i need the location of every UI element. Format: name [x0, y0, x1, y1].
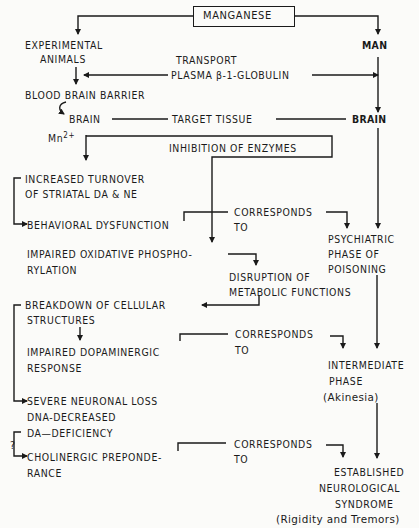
established-line3: SYNDROME: [335, 497, 393, 511]
severe-neuronal-loss: SEVERE NEURONAL LOSS: [27, 394, 158, 408]
established-line1: ESTABLISHED: [334, 465, 404, 479]
man-label: MAN: [362, 38, 387, 52]
blood-brain-barrier-label: BLOOD BRAIN BARRIER: [25, 88, 145, 102]
plasma-label: PLASMA β-1-GLOBULIN: [171, 68, 290, 82]
ion-charge: 2+: [63, 131, 75, 140]
left-brain-label: BRAIN: [69, 112, 101, 126]
increased-turnover-line2: OF STRIATAL DA & NE: [25, 187, 138, 201]
breakdown-line1: BREAKDOWN OF CELLULAR: [25, 298, 166, 312]
transport-label: TRANSPORT: [176, 53, 237, 67]
psychiatric-line3: POISONING: [328, 262, 386, 276]
behavioral-dysfunction: BEHAVIORAL DYSFUNCTION: [27, 218, 169, 232]
disruption-line1: DISRUPTION OF: [229, 270, 310, 284]
dna-decreased: DNA-DECREASED: [27, 410, 116, 424]
root-label: MANGANESE: [203, 9, 272, 23]
psychiatric-line1: PSYCHIATRIC: [328, 232, 395, 246]
cholinergic-line1: CHOLINERGIC PREPONDE-: [27, 450, 162, 464]
question-mark: ?: [10, 438, 16, 452]
ion-symbol: Mn: [48, 132, 63, 144]
ion-label: Mn2+: [48, 129, 75, 145]
established-line4: (Rigidity and Tremors): [276, 512, 400, 526]
cholinergic-line2: RANCE: [27, 466, 62, 480]
animals-label: ANIMALS: [40, 52, 86, 66]
target-tissue-label: TARGET TISSUE: [172, 112, 253, 126]
corresponds-1-line2: TO: [234, 220, 248, 234]
intermediate-line2: PHASE: [329, 374, 363, 388]
impaired-oxidative-line1: IMPAIRED OXIDATIVE PHOSPHO-: [27, 247, 193, 261]
inhibition-label: INHIBITION OF ENZYMES: [169, 141, 297, 155]
corresponds-2-line2: TO: [235, 343, 249, 357]
right-brain-label: BRAIN: [352, 112, 386, 126]
corresponds-2-line1: CORRESPONDS: [235, 327, 313, 341]
established-line2: NEUROLOGICAL: [319, 481, 400, 495]
da-deficiency: DA—DEFICIENCY: [27, 426, 113, 440]
impaired-dopaminergic-line1: IMPAIRED DOPAMINERGIC: [27, 345, 160, 359]
impaired-dopaminergic-line2: RESPONSE: [27, 361, 82, 375]
intermediate-line1: INTERMEDIATE: [328, 358, 404, 372]
corresponds-1-line1: CORRESPONDS: [234, 205, 312, 219]
impaired-oxidative-line2: RYLATION: [27, 263, 77, 277]
experimental-label: EXPERIMENTAL: [25, 38, 103, 52]
corresponds-3-line2: TO: [234, 452, 248, 466]
psychiatric-line2: PHASE OF: [328, 247, 379, 261]
disruption-line2: METABOLIC FUNCTIONS: [229, 285, 351, 299]
breakdown-line2: STRUCTURES: [27, 313, 95, 327]
increased-turnover-line1: INCREASED TURNOVER: [25, 172, 145, 186]
corresponds-3-line1: CORRESPONDS: [234, 437, 312, 451]
intermediate-line3: (Akinesia): [323, 390, 379, 404]
